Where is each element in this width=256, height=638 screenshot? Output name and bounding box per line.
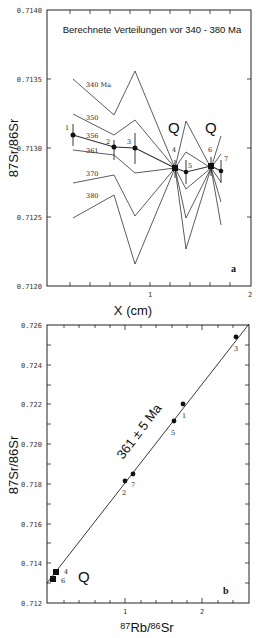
- x-label-rb: Rb/: [130, 620, 151, 635]
- point-label: 6: [208, 146, 212, 154]
- y-tick-label: 0.7125: [17, 214, 42, 222]
- q-label: Q: [205, 119, 217, 136]
- data-point-1: [71, 133, 76, 138]
- data-point-5: [184, 170, 189, 175]
- curve-label-380: 380: [86, 192, 98, 200]
- curve-label-370: 370: [86, 170, 98, 178]
- q-label: Q: [168, 119, 180, 136]
- panel-b: 0.726 0.724 0.722 0.720 0.718 0.716 0.71…: [6, 322, 249, 635]
- point-label: 4: [64, 568, 68, 576]
- x-ticks-bottom-b: [64, 598, 233, 603]
- point-label: 4: [172, 146, 176, 154]
- y-tick-label: 0.7135: [17, 76, 42, 84]
- plot-frame-a: [47, 10, 251, 286]
- x-label-sup-86: 86: [151, 621, 161, 631]
- y-tick-label: 0.722: [21, 401, 42, 409]
- plot-frame-b: [47, 325, 249, 603]
- chart-title-a: Berechnete Verteilungen vor 340 - 380 Ma: [63, 24, 242, 35]
- panel-a: 0.7140 0.7135 0.7130 0.7125 0.7120 1 2 X…: [6, 7, 252, 318]
- data-point-5: [172, 419, 177, 424]
- data-point-3: [234, 335, 239, 340]
- x-axis-label-a: X (cm): [114, 303, 152, 318]
- isochron-label: 361 ± 5 Ma: [113, 400, 165, 462]
- y-ticks-a: [47, 79, 251, 217]
- point-label: 7: [224, 155, 228, 163]
- x-ticks-top-b: [64, 325, 233, 330]
- point-label: 1: [65, 124, 69, 132]
- y-tick-label: 0.7140: [17, 7, 42, 15]
- x-tick-label: 2: [248, 291, 252, 299]
- panel-letter-b: b: [223, 585, 229, 596]
- x-label-sup-87: 87: [120, 621, 130, 631]
- y-tick-label: 0.726: [21, 322, 42, 330]
- x-tick-label: 2: [200, 608, 204, 616]
- point-label: 7: [131, 481, 135, 489]
- curve-label-356: 356: [86, 132, 98, 140]
- isochron-line: [47, 324, 249, 583]
- figure: 0.7140 0.7135 0.7130 0.7125 0.7120 1 2 X…: [0, 0, 256, 638]
- panel-letter-a: a: [231, 263, 236, 274]
- data-point-1: [181, 402, 186, 407]
- y-tick-label: 0.712: [21, 600, 42, 608]
- curve-label-340: 340 Ma: [86, 81, 111, 89]
- q-label: Q: [78, 568, 90, 585]
- point-label: 2: [122, 489, 126, 497]
- data-point-4: [172, 165, 178, 171]
- x-label-sr: Sr: [161, 620, 175, 635]
- y-tick-label: 0.718: [21, 481, 42, 489]
- data-point-4: [53, 569, 59, 575]
- data-point-2: [112, 145, 117, 150]
- y-ticks-b: [47, 345, 249, 583]
- y-axis-label-b: 87Sr/86Sr: [6, 435, 21, 494]
- y-tick-label: 0.714: [21, 560, 42, 568]
- point-label: 3: [127, 138, 131, 146]
- x-axis-label-b: 87Rb/86Sr: [120, 620, 174, 635]
- y-tick-label: 0.716: [21, 521, 42, 529]
- data-point-7: [219, 169, 224, 174]
- model-curves: [73, 71, 221, 264]
- curve-380: [73, 168, 221, 264]
- data-point-3: [133, 146, 138, 151]
- curve-label-361: 361: [86, 147, 98, 155]
- data-point-6: [50, 576, 56, 582]
- data-point-2: [123, 479, 128, 484]
- point-label: 5: [171, 429, 175, 437]
- y-tick-label: 0.720: [21, 441, 42, 449]
- point-label: 2: [106, 138, 110, 146]
- x-tick-label: 1: [148, 291, 152, 299]
- x-ticks-bottom-a: [70, 282, 230, 286]
- data-point-6: [208, 163, 214, 169]
- x-ticks-top-a: [70, 10, 230, 14]
- point-label: 5: [188, 162, 192, 170]
- y-tick-label: 0.724: [21, 362, 42, 370]
- curve-label-350: 350: [86, 114, 98, 122]
- point-label: 6: [61, 577, 65, 585]
- y-tick-label: 0.7120: [17, 283, 42, 291]
- point-label: 3: [234, 345, 238, 353]
- data-point-7: [131, 472, 136, 477]
- x-tick-label: 1: [123, 608, 127, 616]
- point-label: 1: [182, 412, 186, 420]
- y-axis-label-a: 87Sr/86Sr: [6, 118, 21, 177]
